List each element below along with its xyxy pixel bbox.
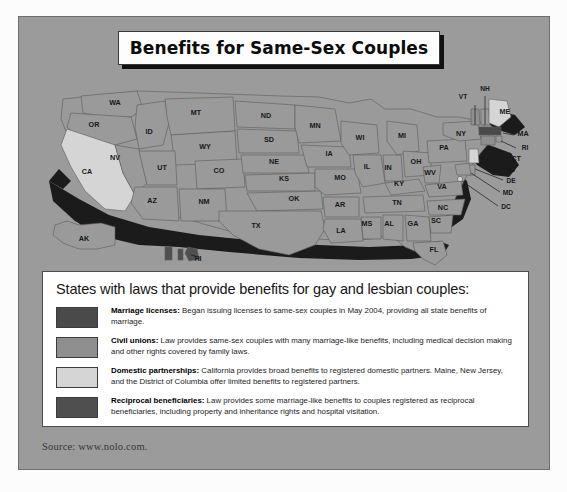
page-title-text: Benefits for Same-Sex Couples bbox=[130, 38, 428, 58]
map-label-VT: VT bbox=[459, 93, 467, 100]
map-label-WA: WA bbox=[109, 98, 121, 107]
state-CT bbox=[481, 136, 495, 145]
us-map: WAORCAIDNVMTWYUTAZCONMNDSDNEKSOKTXMNIAMO… bbox=[19, 69, 550, 269]
legend-heading: States with laws that provide benefits f… bbox=[56, 281, 515, 297]
state-OK bbox=[247, 191, 323, 211]
map-label-MA: MA bbox=[517, 129, 528, 138]
map-label-NC: NC bbox=[438, 203, 448, 212]
legend-swatch bbox=[56, 367, 98, 388]
map-label-CO: CO bbox=[214, 166, 225, 175]
legend-item-term: Domestic partnerships: bbox=[111, 366, 199, 375]
map-label-ID: ID bbox=[145, 127, 152, 136]
map-label-MD: MD bbox=[503, 189, 513, 196]
map-label-KS: KS bbox=[279, 174, 289, 183]
map-label-MO: MO bbox=[334, 173, 346, 182]
map-label-IN: IN bbox=[384, 163, 391, 172]
map-label-IA: IA bbox=[325, 149, 332, 158]
map-label-NE: NE bbox=[269, 157, 279, 166]
state-ID bbox=[135, 101, 169, 149]
legend-item-text: Reciprocal beneficiaries: Law provides s… bbox=[111, 396, 515, 418]
legend-box: States with laws that provide benefits f… bbox=[42, 271, 529, 427]
map-label-NJ: NJ bbox=[507, 166, 516, 173]
poster-panel: Benefits for Same-Sex Couples bbox=[18, 16, 550, 470]
map-label-ME: ME bbox=[500, 107, 511, 116]
legend-item-text: Domestic partnerships: California provid… bbox=[111, 366, 515, 388]
state-MD bbox=[455, 163, 471, 175]
map-label-FL: FL bbox=[430, 245, 439, 254]
legend-rows: Marriage licenses: Began issuing license… bbox=[56, 306, 515, 418]
map-label-UT: UT bbox=[157, 163, 167, 172]
map-label-SD: SD bbox=[264, 135, 274, 144]
map-label-PA: PA bbox=[439, 143, 448, 152]
map-label-MI: MI bbox=[398, 131, 406, 140]
state-NH bbox=[481, 109, 490, 125]
legend-item: Reciprocal beneficiaries: Law provides s… bbox=[56, 396, 515, 418]
map-label-MT: MT bbox=[191, 108, 202, 117]
map-label-DE: DE bbox=[506, 177, 516, 184]
page-title: Benefits for Same-Sex Couples bbox=[118, 31, 440, 65]
map-label-TX: TX bbox=[251, 221, 260, 230]
map-label-AR: AR bbox=[335, 200, 346, 209]
map-label-TN: TN bbox=[392, 198, 402, 207]
legend-item-text: Civil unions: Law provides same-sex coup… bbox=[111, 336, 515, 358]
map-label-SC: SC bbox=[431, 216, 441, 225]
legend-item-description: Law provides same-sex couples with many … bbox=[111, 336, 512, 356]
map-label-MN: MN bbox=[309, 121, 320, 130]
legend-item-term: Civil unions: bbox=[111, 336, 158, 345]
map-label-GA: GA bbox=[408, 219, 419, 228]
map-label-RI: RI bbox=[522, 144, 529, 151]
legend-swatch bbox=[56, 337, 98, 358]
map-label-ND: ND bbox=[261, 111, 271, 120]
map-label-DC: DC bbox=[501, 203, 511, 210]
map-label-NM: NM bbox=[198, 197, 209, 206]
legend-swatch bbox=[56, 397, 98, 418]
legend-swatch bbox=[56, 307, 98, 328]
map-label-LA: LA bbox=[336, 226, 346, 235]
map-label-KY: KY bbox=[394, 179, 404, 188]
map-label-OK: OK bbox=[289, 194, 301, 203]
map-label-OH: OH bbox=[411, 157, 422, 166]
map-label-NH: NH bbox=[480, 85, 490, 92]
legend-item: Domestic partnerships: California provid… bbox=[56, 366, 515, 388]
map-label-MS: MS bbox=[362, 219, 373, 228]
legend-item-text: Marriage licenses: Began issuing license… bbox=[111, 306, 515, 328]
state-DC bbox=[457, 176, 462, 181]
map-label-OR: OR bbox=[89, 120, 101, 129]
source-note: Source: www.nolo.com. bbox=[42, 441, 148, 452]
legend-item-term: Reciprocal beneficiaries: bbox=[111, 396, 204, 405]
map-label-CT: CT bbox=[511, 154, 521, 163]
map-label-AL: AL bbox=[384, 219, 394, 228]
map-label-IL: IL bbox=[364, 162, 371, 171]
map-label-AZ: AZ bbox=[147, 196, 157, 205]
legend-item: Marriage licenses: Began issuing license… bbox=[56, 306, 515, 328]
map-label-AK: AK bbox=[79, 234, 90, 243]
map-label-NV: NV bbox=[110, 153, 120, 162]
map-label-WI: WI bbox=[356, 133, 365, 142]
map-label-CA: CA bbox=[82, 167, 92, 176]
state-MA bbox=[479, 127, 501, 135]
state-NJ bbox=[469, 149, 479, 163]
map-label-WY: WY bbox=[199, 142, 211, 151]
map-label-NY: NY bbox=[456, 129, 466, 138]
legend-item: Civil unions: Law provides same-sex coup… bbox=[56, 336, 515, 358]
map-label-HI: HI bbox=[194, 254, 201, 263]
legend-item-term: Marriage licenses: bbox=[111, 306, 180, 315]
map-label-WV: WV bbox=[424, 168, 436, 177]
state-VT bbox=[471, 109, 480, 125]
map-label-VA: VA bbox=[437, 182, 446, 191]
